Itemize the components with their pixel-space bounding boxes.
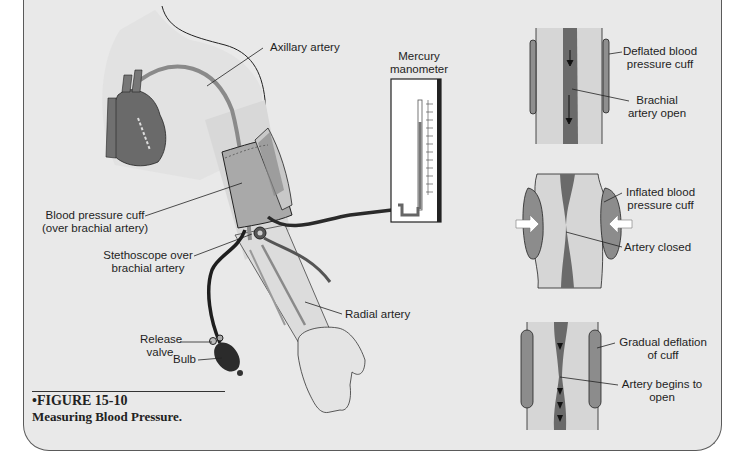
label-mercury-manometer: Mercury manometer — [374, 50, 464, 76]
label-artery-closed: Artery closed — [624, 241, 691, 254]
label-artery-begins-open: Artery begins to open — [619, 378, 705, 404]
bulb-tube — [209, 230, 245, 343]
label-begins-line2: open — [619, 391, 705, 404]
label-release-line1: Release — [140, 333, 180, 346]
label-radial-artery: Radial artery — [345, 308, 410, 321]
mercury-manometer — [391, 79, 441, 222]
label-inflated-line2: pressure cuff — [623, 199, 698, 212]
label-manometer-line1: Mercury — [374, 50, 464, 63]
bulb-icon — [209, 335, 245, 376]
hand-icon — [298, 327, 365, 412]
label-blood-pressure-cuff: Blood pressure cuff (over brachial arter… — [40, 209, 150, 235]
label-gradual-line1: Gradual deflation — [617, 336, 709, 349]
label-deflated-line1: Deflated blood — [620, 45, 700, 58]
caption-rule — [32, 391, 225, 392]
label-deflated-cuff: Deflated blood pressure cuff — [620, 45, 700, 71]
panel-deflated — [530, 28, 629, 144]
panel-inflated — [516, 174, 632, 288]
label-deflated-line2: pressure cuff — [620, 58, 700, 71]
label-stethoscope-line2: brachial artery — [102, 262, 194, 275]
label-stethoscope-line1: Stethoscope over — [102, 249, 194, 262]
label-inflated-line1: Inflated blood — [623, 186, 698, 199]
label-inflated-cuff: Inflated blood pressure cuff — [623, 186, 698, 212]
figure-title: Measuring Blood Pressure. — [32, 409, 182, 425]
panel-gradual-deflation — [521, 322, 618, 430]
label-brachial-artery-open: Brachial artery open — [627, 94, 687, 120]
label-cuff-line1: Blood pressure cuff — [40, 209, 150, 222]
label-brachial-line1: Brachial — [627, 94, 687, 107]
label-gradual-line2: of cuff — [617, 349, 709, 362]
label-begins-line1: Artery begins to — [619, 378, 705, 391]
label-brachial-line2: artery open — [627, 107, 687, 120]
label-cuff-line2: (over brachial artery) — [40, 222, 150, 235]
label-axillary-artery: Axillary artery — [270, 41, 340, 54]
figure-number: •FIGURE 15-10 — [32, 393, 128, 409]
label-bulb: Bulb — [173, 353, 196, 366]
label-manometer-line2: manometer — [374, 63, 464, 76]
label-stethoscope: Stethoscope over brachial artery — [102, 249, 194, 275]
label-gradual-deflation: Gradual deflation of cuff — [617, 336, 709, 362]
